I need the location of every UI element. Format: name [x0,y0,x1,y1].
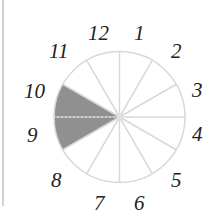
label-7: 7 [94,191,106,215]
label-12: 12 [88,21,110,45]
label-9: 9 [27,123,38,147]
label-2: 2 [171,39,182,63]
clock-circle-diagram: 12 1 2 3 4 5 6 7 8 9 10 11 [0,0,218,220]
label-4: 4 [192,122,203,146]
label-8: 8 [51,168,62,192]
label-5: 5 [171,168,182,192]
label-3: 3 [191,78,203,102]
center-dot [117,114,123,120]
label-1: 1 [134,21,145,45]
label-11: 11 [49,39,68,63]
label-10: 10 [24,79,46,103]
label-6: 6 [134,191,145,215]
